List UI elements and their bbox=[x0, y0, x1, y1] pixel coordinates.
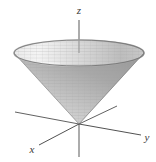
x-axis-label: x bbox=[29, 143, 35, 155]
x-axis-line-front bbox=[39, 124, 79, 145]
y-axis-label: y bbox=[144, 131, 150, 143]
cone-diagram-svg: z y x bbox=[0, 0, 156, 162]
z-axis-label: z bbox=[76, 4, 82, 16]
figure-canvas: z y x bbox=[0, 0, 156, 162]
y-axis-line-front bbox=[79, 124, 141, 135]
cone-surface bbox=[0, 40, 156, 130]
